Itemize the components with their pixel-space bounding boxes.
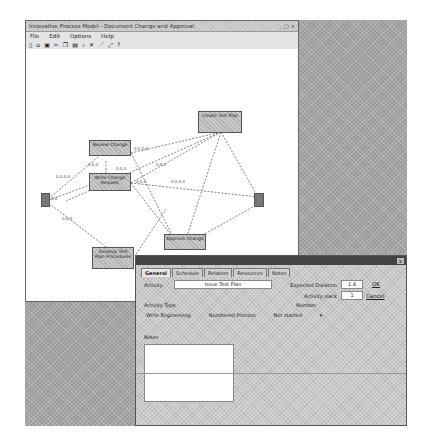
activity-row: Activity Issue Test Plan — [144, 280, 272, 289]
slack-input[interactable]: 1 — [341, 291, 363, 300]
minimize-icon[interactable]: _ — [280, 23, 283, 29]
copy-icon[interactable]: ❐ — [63, 41, 68, 48]
close-icon[interactable]: × — [291, 23, 295, 29]
zoom-icon[interactable]: ⌕ — [82, 41, 85, 49]
help-icon[interactable]: ? — [117, 41, 120, 48]
dialog-tabs: General Schedule Relation Resources Note… — [141, 268, 406, 277]
menu-options[interactable]: Options — [70, 33, 91, 39]
notes-row: Notes — [144, 334, 158, 340]
edge-label: 0,0,0 — [88, 162, 98, 167]
slack-label: Activity slack — [281, 293, 337, 299]
save-icon[interactable]: ▣ — [44, 41, 50, 48]
tab-general[interactable]: General — [141, 268, 171, 277]
duration-input[interactable]: 1.4 — [341, 280, 363, 289]
slack-row: Activity slack 1 — [281, 291, 363, 300]
activity-input[interactable]: Issue Test Plan — [174, 280, 272, 289]
close-icon[interactable]: x — [397, 258, 404, 264]
tab-notes[interactable]: Notes — [268, 268, 290, 277]
options-row: Write Engineering Numbered Process Not s… — [146, 312, 322, 318]
diagram-node[interactable]: Write Change Request — [89, 173, 131, 191]
type-label: Activity Type — [144, 302, 176, 308]
edge-label: 0,0,0,0 — [171, 179, 185, 184]
chevron-down-icon[interactable]: ▾ — [320, 312, 323, 318]
open-icon[interactable]: ⌂ — [36, 41, 40, 48]
activity-label: Activity — [144, 282, 174, 288]
diagram-node[interactable]: Create Test Plan — [198, 111, 242, 133]
diagram-node-start[interactable] — [41, 193, 50, 207]
link-icon[interactable]: ⤢ — [108, 41, 113, 49]
number-label: Number — [296, 302, 316, 308]
menu-bar: File Edit Options Help — [26, 32, 298, 40]
notes-label: Notes — [144, 334, 158, 340]
edge-label: 0,0,0 — [62, 216, 72, 221]
cancel-button[interactable]: Cancel — [366, 293, 385, 299]
diagram-node[interactable]: Approve Change — [164, 234, 206, 250]
cut-icon[interactable]: ✂ — [54, 41, 59, 48]
edge-label: 0,0,0 — [136, 179, 146, 184]
type-row: Activity Type — [144, 302, 176, 308]
tab-schedule[interactable]: Schedule — [172, 268, 203, 277]
menu-edit[interactable]: Edit — [49, 33, 60, 39]
new-icon[interactable]: ▯ — [29, 41, 32, 48]
tab-relation[interactable]: Relation — [204, 268, 232, 277]
edge-label: 0,0,0 — [116, 166, 126, 171]
option-engineering[interactable]: Write Engineering — [146, 312, 191, 318]
activity-properties-dialog: x General Schedule Relation Resources No… — [135, 255, 407, 426]
dialog-titlebar[interactable]: x — [136, 256, 406, 265]
diagram-node[interactable]: Develop Test Plan Procedures — [92, 247, 134, 269]
edge-label: 0,0,0,0 — [134, 146, 148, 151]
maximize-icon[interactable]: □ — [284, 23, 289, 29]
pen-icon[interactable]: ／ — [98, 40, 104, 49]
window-titlebar[interactable]: Innovative Process Model - Document Chan… — [26, 21, 298, 32]
menu-file[interactable]: File — [30, 33, 39, 39]
ok-button[interactable]: OK — [372, 281, 380, 287]
window-title: Innovative Process Model - Document Chan… — [29, 23, 278, 29]
duration-label: Expected Duration — [281, 282, 337, 288]
number-row: Number — [296, 302, 316, 308]
diagram-node-end[interactable] — [254, 193, 264, 207]
diagram-node[interactable]: Review Change — [89, 140, 131, 156]
delete-icon[interactable]: ✕ — [89, 41, 94, 48]
duration-row: Expected Duration 1.4 — [281, 280, 363, 289]
divider — [136, 373, 406, 374]
edge-label: 0,0 — [51, 196, 57, 201]
tab-resources[interactable]: Resources — [233, 268, 267, 277]
menu-help[interactable]: Help — [101, 33, 114, 39]
status-select[interactable]: Not started — [274, 312, 302, 318]
edge-label: 0,0,0,0 — [56, 174, 70, 179]
paste-icon[interactable]: ▤ — [72, 41, 78, 48]
edge-label: 0,0,0 — [156, 162, 166, 167]
option-numbered-process[interactable]: Numbered Process — [209, 312, 256, 318]
